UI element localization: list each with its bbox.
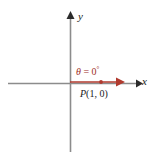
- coordinate-plane-figure: y x θ = 0° P(1, 0): [0, 0, 154, 156]
- angle-equals: =: [81, 66, 92, 77]
- point-p-coordinates: (1, 0): [86, 88, 108, 99]
- axis-label-y: y: [78, 11, 83, 22]
- angle-measure-label: θ = 0°: [76, 66, 99, 77]
- y-axis-arrowhead: [67, 11, 75, 19]
- coordinate-axes-graphic: [0, 0, 154, 156]
- point-p-marker: [99, 80, 103, 84]
- point-p-label: P(1, 0): [80, 89, 108, 99]
- terminal-ray-arrowhead: [116, 78, 125, 87]
- axis-label-x: x: [142, 76, 147, 87]
- degree-sign-icon: °: [97, 65, 100, 73]
